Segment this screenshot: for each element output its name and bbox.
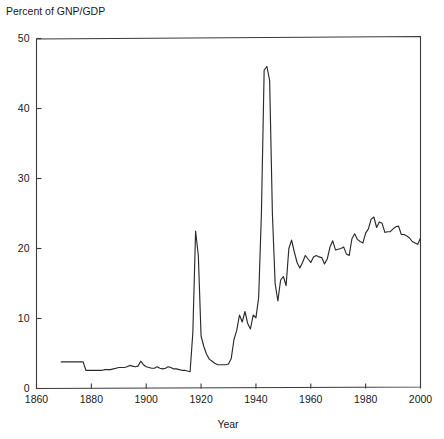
x-tick-label: 1920: [189, 393, 213, 405]
y-tick-label: 20: [18, 242, 30, 254]
y-axis-ticks: [37, 39, 42, 389]
x-tick-label: 1880: [80, 393, 104, 405]
x-axis-label: Year: [217, 418, 239, 430]
x-tick-label: 1900: [135, 393, 159, 405]
x-tick-label: 1940: [244, 393, 268, 405]
x-tick-label: 1960: [299, 393, 323, 405]
y-axis-tick-labels: 01020304050: [18, 32, 30, 394]
line-chart: Percent of GNP/GDP 01020304050 186018801…: [0, 0, 444, 439]
x-tick-label: 1860: [25, 393, 49, 405]
y-axis-label: Percent of GNP/GDP: [6, 5, 105, 17]
axis-frame: [37, 37, 421, 389]
x-tick-label: 1980: [354, 393, 378, 405]
chart-page: Percent of GNP/GDP 01020304050 186018801…: [0, 0, 444, 439]
data-series-line: [61, 67, 420, 372]
data-series-group: [61, 67, 420, 372]
y-tick-label: 50: [18, 32, 30, 44]
x-tick-label: 2000: [409, 393, 433, 405]
y-tick-label: 40: [18, 102, 30, 114]
x-axis-tick-labels: 18601880190019201940196019802000: [25, 393, 433, 405]
y-tick-label: 10: [18, 312, 30, 324]
y-tick-label: 30: [18, 172, 30, 184]
